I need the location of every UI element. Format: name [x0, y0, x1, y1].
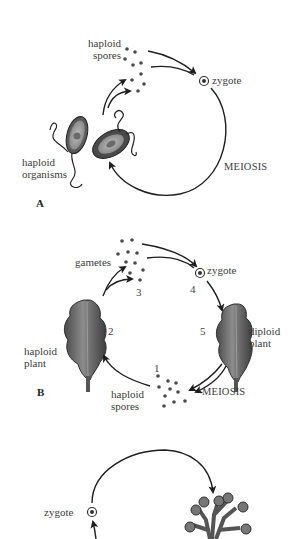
arrow-organisms-to-spores-2	[108, 91, 130, 108]
panel-letter-a: A	[36, 197, 44, 209]
label-haploid-spores-b: haploid spores	[111, 388, 144, 412]
panel-c	[88, 450, 252, 539]
label-line: plant	[24, 357, 57, 369]
panel-letter-b: B	[37, 386, 44, 398]
label-haploid-spores-a: haploid spores	[60, 37, 121, 61]
label-line: spores	[111, 400, 144, 412]
stage-number-1: 1	[154, 362, 160, 374]
zygote-icon	[196, 269, 205, 278]
zygote-icon	[200, 77, 209, 86]
label-line: plant	[249, 337, 280, 349]
arrow-to-zygote-c	[93, 522, 96, 539]
zygote-icon	[88, 508, 97, 517]
label-zygote-b: zygote	[207, 264, 236, 276]
gametes-dots	[116, 238, 145, 282]
stage-number-5: 5	[200, 325, 206, 337]
arrow-spores-to-zygote-1	[148, 51, 195, 73]
label-line: haploid	[111, 388, 144, 400]
label-meiosis-a: MEIOSIS	[224, 161, 267, 173]
label-diploid-plant: diploid plant	[249, 325, 280, 349]
arrow-haploid-to-gametes-1	[103, 267, 125, 296]
haploid-organism-icon	[88, 111, 137, 165]
label-meiosis-b: MEIOSIS	[202, 386, 245, 398]
stage-number-3: 3	[136, 286, 142, 298]
label-line: haploid	[24, 345, 57, 357]
arrow-gametes-to-zygote-1	[142, 244, 196, 266]
diploid-plant-icon	[216, 304, 252, 392]
label-line: haploid	[22, 156, 67, 168]
label-line: diploid	[249, 325, 280, 337]
stage-number-2: 2	[108, 325, 114, 337]
life-cycle-diagram	[0, 0, 289, 539]
arrow-zygote-to-diploid	[207, 281, 222, 310]
label-line: organisms	[22, 168, 67, 180]
label-line: spores	[60, 49, 121, 61]
haploid-spores-dots	[123, 47, 146, 93]
branched-diploid-organism-icon	[185, 493, 251, 539]
label-zygote-a: zygote	[212, 74, 241, 86]
label-gametes: gametes	[75, 256, 111, 268]
stage-number-4: 4	[190, 283, 196, 295]
arrow-zygote-to-diploid-c	[92, 450, 213, 503]
label-haploid-organisms: haploid organisms	[22, 156, 67, 180]
haploid-spores-dots	[156, 374, 187, 408]
label-zygote-c: zygote	[44, 506, 73, 518]
panel-a	[50, 47, 226, 195]
arrow-spores-to-haploid	[104, 356, 150, 386]
haploid-plant-icon	[64, 300, 106, 392]
label-line: haploid	[60, 37, 121, 49]
label-haploid-plant: haploid plant	[24, 345, 57, 369]
